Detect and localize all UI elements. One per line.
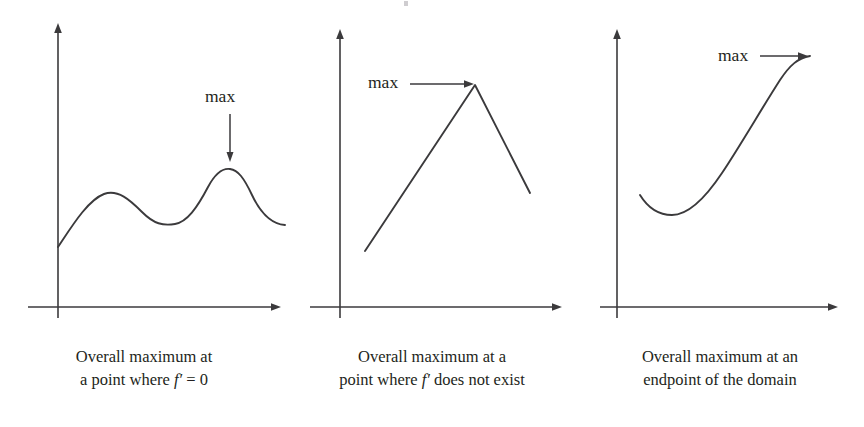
caption-2-text-after: does not exist [430,370,525,389]
max-label-1: max [205,88,235,106]
panel-max-where-derivative-undefined: max Overall maximum at a point where f′ … [288,0,576,427]
panel-max-at-endpoint: max Overall maximum at an endpoint of th… [576,0,864,427]
caption-1-line-1: Overall maximum at [0,345,288,368]
y-axis-arrowhead-2 [336,29,344,39]
caption-1-line-2: a point where f′ = 0 [0,368,288,391]
figure-container: max Overall maximum at a point where f′ … [0,0,864,427]
curve-2 [365,85,530,251]
max-label-3: max [718,47,748,65]
caption-2: Overall maximum at a point where f′ does… [288,345,576,392]
caption-1-text-after: = 0 [182,370,208,389]
max-arrow-head-1 [227,152,234,162]
caption-2-line-2: point where f′ does not exist [288,368,576,391]
x-axis-arrowhead-2 [552,303,562,311]
caption-1-text-before: a point where [80,370,174,389]
caption-3-text-before: endpoint of the domain [643,370,797,389]
caption-3-line-2: endpoint of the domain [576,368,864,391]
x-axis-arrowhead-1 [271,303,281,311]
caption-1: Overall maximum at a point where f′ = 0 [0,345,288,392]
panel-max-at-critical-point: max Overall maximum at a point where f′ … [0,0,288,427]
curve-3 [640,56,810,215]
max-label-2: max [368,74,398,92]
caption-2-line-1: Overall maximum at a [288,345,576,368]
caption-2-text-before: point where [339,370,421,389]
caption-3-line-1: Overall maximum at an [576,345,864,368]
y-axis-arrowhead-3 [613,29,621,39]
curve-1 [58,169,285,247]
y-axis-arrowhead-1 [54,23,62,33]
max-arrow-head-2 [464,80,474,88]
caption-3: Overall maximum at an endpoint of the do… [576,345,864,392]
plot-1 [0,0,288,330]
x-axis-arrowhead-3 [828,303,838,311]
plot-2 [288,0,576,330]
